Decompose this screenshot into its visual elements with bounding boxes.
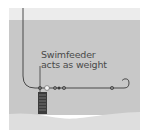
swimfeeder-icon — [38, 92, 47, 114]
bead-icon — [45, 86, 50, 91]
annotation-line-2: acts as weight — [41, 60, 107, 70]
swimfeeder-rig-diagram: Swimfeeder acts as weight — [0, 0, 151, 137]
stop-bead-icon — [58, 87, 61, 90]
swimfeeder-annotation: Swimfeeder acts as weight — [41, 50, 107, 70]
surface-band — [9, 8, 140, 21]
